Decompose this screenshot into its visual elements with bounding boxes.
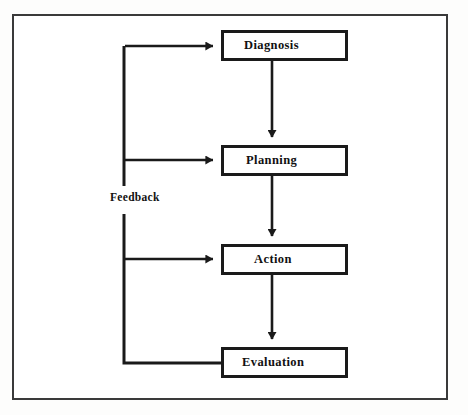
- feedback-label: Feedback: [107, 190, 163, 204]
- node-planning-label: Planning: [224, 153, 297, 168]
- node-diagnosis-label: Diagnosis: [224, 38, 299, 53]
- diagram-outer-frame: [12, 14, 448, 400]
- node-planning[interactable]: Planning: [221, 145, 348, 176]
- diagram-root: Diagnosis Planning Action Evaluation Fee…: [0, 0, 468, 415]
- node-evaluation-label: Evaluation: [224, 355, 304, 370]
- node-action-label: Action: [224, 252, 292, 267]
- node-evaluation[interactable]: Evaluation: [221, 347, 348, 378]
- node-action[interactable]: Action: [221, 244, 348, 275]
- node-diagnosis[interactable]: Diagnosis: [221, 30, 348, 61]
